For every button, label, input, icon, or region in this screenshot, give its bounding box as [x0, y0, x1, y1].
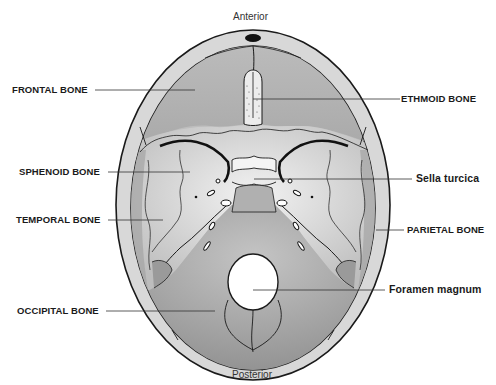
label-sella-turcica: Sella turcica [416, 173, 479, 184]
label-temporal-bone: TEMPORAL BONE [16, 215, 101, 225]
label-frontal-bone: FRONTAL BONE [12, 85, 88, 95]
clivus [232, 185, 276, 212]
label-foramen-magnum: Foramen magnum [389, 284, 481, 295]
foramen-magnum-shape [228, 254, 278, 310]
skull-base-diagram [0, 0, 496, 385]
label-parietal-bone: PARIETAL BONE [407, 225, 484, 235]
label-ethmoid-bone: ETHMOID BONE [401, 94, 476, 104]
anterior-notch [245, 34, 261, 42]
anterior-label: Anterior [233, 12, 268, 22]
label-occipital-bone: OCCIPITAL BONE [17, 306, 99, 316]
posterior-label: Posterior [232, 370, 272, 380]
label-sphenoid-bone: SPHENOID BONE [19, 167, 100, 177]
